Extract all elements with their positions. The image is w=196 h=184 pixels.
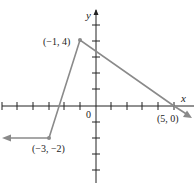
y-axis-arrow-icon xyxy=(94,9,99,15)
point-label-5-0: (5, 0) xyxy=(157,113,179,125)
origin-label: 0 xyxy=(86,109,91,120)
x-axis-label: x xyxy=(180,92,186,104)
left-arrow-icon xyxy=(2,135,11,142)
point-neg3-neg2 xyxy=(47,136,51,140)
point-label-neg1-4: (−1, 4) xyxy=(43,36,70,48)
point-neg1-4 xyxy=(78,38,82,42)
graph: y x 0 (−1, 4) (5, 0) (−3, −2) xyxy=(0,0,196,184)
y-axis-label: y xyxy=(85,9,91,21)
right-arrow-icon xyxy=(183,111,192,119)
axes xyxy=(2,9,194,183)
point-label-neg3-neg2: (−3, −2) xyxy=(32,143,65,155)
